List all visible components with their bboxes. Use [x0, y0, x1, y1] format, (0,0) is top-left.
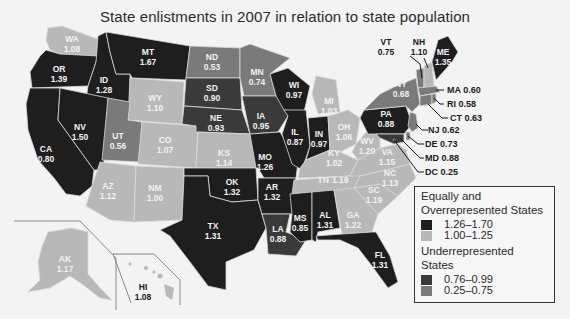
svg-text:RI 0.58: RI 0.58	[447, 99, 476, 109]
legend-swatch-mid-low	[421, 275, 432, 285]
state-NJ	[408, 112, 418, 132]
svg-text:ME1.35: ME1.35	[435, 47, 452, 67]
svg-text:OR1.39: OR1.39	[51, 64, 68, 84]
svg-text:NM1.00: NM1.00	[147, 183, 164, 203]
svg-text:MN0.74: MN0.74	[249, 67, 266, 87]
svg-text:MS0.85: MS0.85	[292, 213, 309, 233]
legend-swatch-high	[421, 220, 432, 230]
svg-text:VT0.75: VT0.75	[378, 37, 395, 57]
svg-text:MO1.26: MO1.26	[257, 152, 274, 172]
svg-text:WY1.10: WY1.10	[147, 93, 164, 113]
svg-text:MD 0.88: MD 0.88	[425, 153, 459, 163]
svg-text:OH1.06: OH1.06	[336, 122, 353, 142]
legend-item-mid-high: 1.00–1.25	[421, 230, 548, 241]
svg-text:NH1.10: NH1.10	[411, 37, 428, 57]
svg-text:CT 0.63: CT 0.63	[450, 113, 482, 123]
svg-text:GA1.22: GA1.22	[345, 210, 362, 230]
svg-text:HI1.08: HI1.08	[135, 282, 152, 302]
svg-text:TN1.19: TN1.19	[318, 175, 349, 185]
svg-text:AR1.32: AR1.32	[264, 182, 281, 202]
svg-text:NJ 0.62: NJ 0.62	[428, 125, 460, 135]
state-CT	[420, 94, 432, 106]
svg-text:NC1.13: NC1.13	[382, 168, 399, 188]
svg-text:MT1.67: MT1.67	[140, 47, 157, 67]
svg-text:DC 0.25: DC 0.25	[425, 167, 458, 177]
svg-text:ND0.53: ND0.53	[204, 52, 221, 72]
svg-text:CO1.07: CO1.07	[157, 135, 174, 155]
legend-under-header: Underrepresented States	[421, 245, 548, 272]
svg-text:AK1.17: AK1.17	[57, 254, 74, 274]
svg-text:MA 0.60: MA 0.60	[447, 85, 481, 95]
svg-text:CA0.80: CA0.80	[38, 144, 55, 164]
legend-swatch-low	[421, 286, 432, 296]
svg-text:WA1.08: WA1.08	[64, 34, 81, 54]
legend-item-low: 0.25–0.75	[421, 285, 548, 296]
svg-text:OK1.32: OK1.32	[224, 177, 241, 197]
legend-over-header: Equally and Overrepresented States	[421, 190, 548, 217]
legend: Equally and Overrepresented States 1.26–…	[414, 186, 555, 303]
legend-swatch-mid-high	[421, 231, 432, 241]
svg-text:DE 0.73: DE 0.73	[425, 139, 458, 149]
svg-text:WV1.20: WV1.20	[359, 136, 376, 156]
